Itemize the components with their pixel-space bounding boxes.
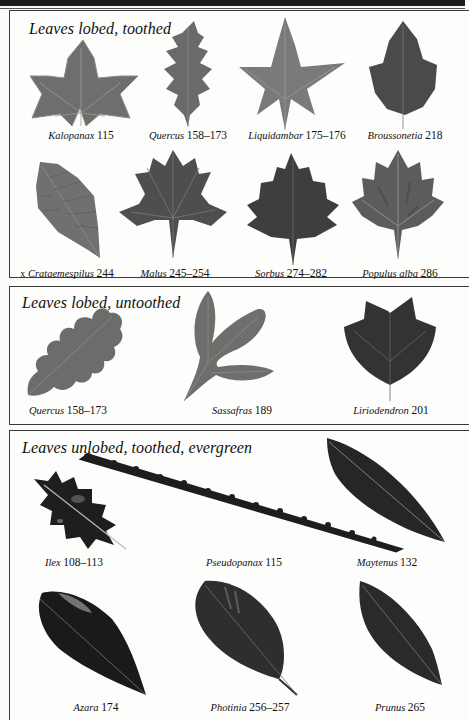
leaf-image-liriodendron (340, 291, 440, 401)
caption-ilex: Ilex 108–113 (45, 556, 103, 568)
caption-crataemespilus: x Crataemespilus 244 (20, 267, 113, 279)
leaf-image-kalopanax (20, 28, 140, 128)
section-lobed-toothed: Leaves lobed, toothed Kalopanax 115 Quer… (9, 10, 469, 278)
caption-photinia: Photinia 256–257 (210, 701, 289, 713)
section-unlobed-toothed-evergreen: Leaves unlobed, toothed, evergreen Ilex … (9, 430, 469, 720)
section-lobed-untoothed: Leaves lobed, untoothed Quercus 158–173 … (9, 286, 469, 425)
caption-maytenus: Maytenus 132 (357, 556, 418, 568)
leaf-image-broussonetia (365, 19, 445, 129)
caption-sorbus: Sorbus 274–282 (255, 267, 327, 279)
caption-quercus: Quercus 158–173 (149, 129, 227, 141)
leaf-image-azara (32, 589, 152, 699)
caption-liquidambar: Liquidambar 175–176 (248, 129, 346, 141)
caption-malus: Malus 245–254 (140, 267, 209, 279)
leaf-image-prunus (358, 579, 448, 689)
caption-pseudopanax: Pseudopanax 115 (206, 556, 282, 568)
leaf-image-sassafras (178, 287, 298, 402)
caption-prunus: Prunus 265 (375, 701, 425, 713)
page-top-rule (0, 0, 465, 6)
caption-liriodendron: Liriodendron 201 (353, 404, 429, 416)
caption-quercus-untoothed: Quercus 158–173 (29, 404, 107, 416)
leaf-image-quercus-toothed (158, 19, 218, 127)
leaf-image-sorbus (243, 151, 343, 266)
leaf-image-maytenus (325, 436, 450, 546)
leaf-image-populus-alba (348, 146, 448, 261)
leaf-image-photinia (185, 579, 305, 699)
leaf-image-liquidambar (235, 15, 355, 130)
caption-kalopanax: Kalopanax 115 (48, 129, 114, 141)
caption-sassafras: Sassafras 189 (212, 404, 272, 416)
caption-populus-alba: Populus alba 286 (362, 267, 438, 279)
page-top-rule-thin (0, 8, 465, 9)
leaf-image-crataemespilus (28, 156, 108, 266)
leaf-image-quercus-untoothed (22, 299, 132, 399)
caption-broussonetia: Broussonetia 218 (368, 129, 443, 141)
leaf-image-malus (115, 146, 235, 261)
caption-azara: Azara 174 (74, 701, 119, 713)
